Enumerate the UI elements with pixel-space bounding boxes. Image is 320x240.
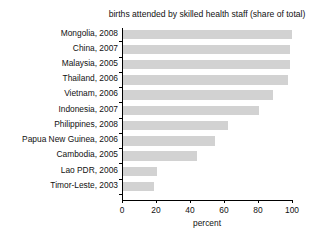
bar [123,167,157,176]
plot-area: Mongolia, 2008China, 2007Malaysia, 2005T… [122,28,292,200]
y-axis-tick [119,57,122,58]
y-axis-tick [119,118,122,119]
x-axis-tick-label: 100 [277,205,307,215]
y-axis-tick [119,133,122,134]
x-axis-title: percent [122,218,292,228]
category-label: Lao PDR, 2006 [61,166,118,176]
category-label: Vietnam, 2006 [64,89,118,99]
category-label: Philippines, 2008 [54,120,118,130]
bar [123,45,290,54]
category-label: Cambodia, 2005 [57,150,118,160]
bar [123,30,292,39]
y-axis-tick [119,163,122,164]
y-axis-tick [119,72,122,73]
x-axis-tick [258,200,259,203]
y-axis-tick [119,194,122,195]
bar [123,136,215,145]
x-axis-tick [190,200,191,203]
x-axis-tick-label: 60 [209,205,239,215]
y-axis-tick [119,179,122,180]
x-axis-tick-label: 0 [107,205,137,215]
y-axis-tick [119,87,122,88]
category-label: Malaysia, 2005 [62,59,118,69]
x-axis-line [122,200,292,201]
bar [123,75,288,84]
bar [123,182,154,191]
x-axis-tick-label: 20 [141,205,171,215]
bar [123,121,228,130]
bar [123,151,197,160]
chart-title: births attended by skilled health staff … [96,9,318,20]
x-axis-tick [292,200,293,203]
y-axis-tick [119,41,122,42]
category-label: China, 2007 [73,44,118,54]
x-axis-tick [224,200,225,203]
bar [123,106,259,115]
y-axis-tick [119,102,122,103]
category-label: Timor-Leste, 2003 [50,181,118,191]
x-axis-tick-label: 80 [243,205,273,215]
category-label: Thailand, 2006 [63,74,118,84]
bar [123,90,273,99]
category-label: Papua New Guinea, 2006 [22,135,118,145]
bar [123,60,290,69]
x-axis-tick [156,200,157,203]
bar-chart: births attended by skilled health staff … [0,0,320,240]
x-axis-tick [122,200,123,203]
category-label: Indonesia, 2007 [58,105,118,115]
y-axis-tick [119,148,122,149]
x-axis-tick-label: 40 [175,205,205,215]
category-label: Mongolia, 2008 [61,29,118,39]
